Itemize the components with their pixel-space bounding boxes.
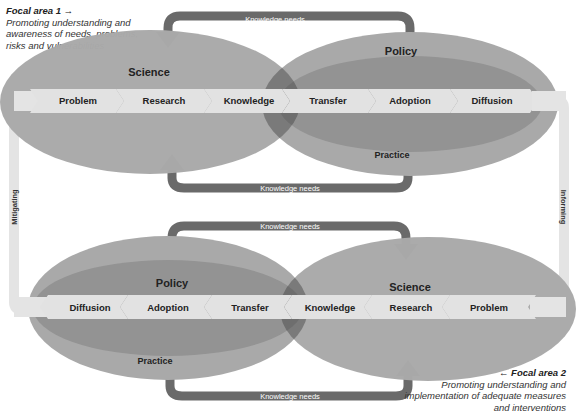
top-step-diffusion: Diffusion [471,95,512,106]
top-science-label: Science [128,66,170,78]
top-knowledge-needs-upper-label: Knowledge needs [245,15,305,24]
bottom-science-label: Science [389,281,431,293]
top-practice-label: Practice [374,150,409,160]
bottom-step-research: Research [390,302,433,313]
top-step-adoption: Adoption [389,95,431,106]
bottom-step-problem: Problem [470,302,508,313]
focal-area-2-description: Promoting understanding and implementati… [401,379,566,414]
bottom-step-knowledge: Knowledge [305,302,356,313]
mitigating-label: Mitigating [10,189,19,225]
diagram-canvas: Science Policy Practice Problem Research… [0,0,578,414]
informing-label: Informing [559,190,568,225]
focal-area-2: ← Focal area 2 Promoting understanding a… [401,367,566,413]
top-step-transfer: Transfer [309,95,347,106]
bottom-step-adoption: Adoption [147,302,189,313]
bottom-step-transfer: Transfer [231,302,269,313]
top-step-research: Research [143,95,186,106]
bottom-practice-label: Practice [137,356,172,366]
bottom-knowledge-needs-upper-label: Knowledge needs [260,222,320,231]
top-step-problem: Problem [59,95,97,106]
top-policy-label: Policy [385,45,418,57]
focal-area-2-title: ← Focal area 2 [401,367,566,379]
top-knowledge-needs-lower-label: Knowledge needs [260,184,320,193]
bottom-step-diffusion: Diffusion [69,302,110,313]
bottom-knowledge-needs-lower-label: Knowledge needs [260,392,320,401]
top-step-knowledge: Knowledge [224,95,275,106]
bottom-policy-label: Policy [156,277,189,289]
